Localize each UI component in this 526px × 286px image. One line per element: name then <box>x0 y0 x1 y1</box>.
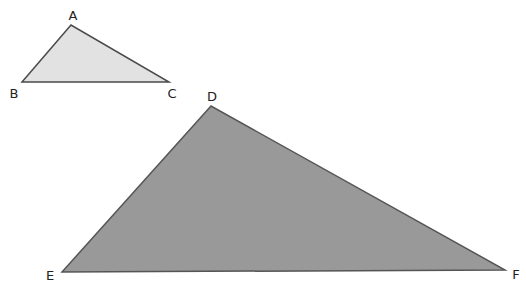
vertex-label-d: D <box>207 89 217 104</box>
vertex-label-b: B <box>10 86 19 101</box>
diagram-canvas: A B C D E F <box>0 0 526 286</box>
vertex-label-a: A <box>69 8 78 23</box>
vertex-label-f: F <box>512 267 519 282</box>
triangle-def <box>62 106 505 272</box>
vertex-label-e: E <box>46 268 54 283</box>
vertex-label-c: C <box>167 86 176 101</box>
triangle-abc <box>22 25 169 82</box>
